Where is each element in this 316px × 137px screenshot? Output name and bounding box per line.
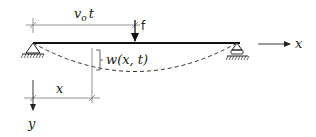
roller-support-icon (226, 43, 249, 60)
pinned-support-icon (21, 43, 44, 58)
beam-diagram: vot f (0, 0, 316, 137)
deflection-label: w(x, t) (106, 52, 148, 67)
force-label: f (141, 19, 146, 33)
load-position-label: vot (74, 6, 95, 23)
deflection-bracket (96, 50, 103, 70)
x-axis-label: x (295, 36, 303, 51)
x-position-label: x (56, 81, 64, 96)
y-axis-label: y (27, 116, 36, 131)
